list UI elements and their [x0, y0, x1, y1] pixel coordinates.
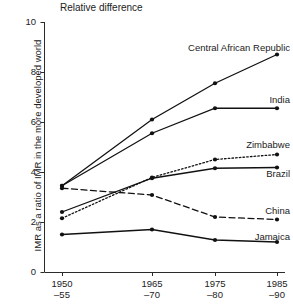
- point-brazil-0: [60, 210, 64, 214]
- plot-area: [0, 0, 293, 304]
- point-brazil-2: [213, 166, 217, 170]
- point-china-1: [150, 193, 154, 197]
- point-central-african-republic-2: [213, 81, 217, 85]
- point-brazil-1: [150, 176, 154, 180]
- point-central-african-republic-1: [150, 117, 154, 121]
- line-zimbabwe: [62, 155, 277, 219]
- point-jamaica-3: [275, 240, 279, 244]
- y-axis-ticks: [41, 23, 45, 273]
- line-brazil: [62, 168, 277, 213]
- point-jamaica-2: [213, 238, 217, 242]
- point-india-1: [150, 131, 154, 135]
- point-brazil-3: [275, 165, 279, 169]
- point-india-3: [275, 106, 279, 110]
- relative-difference-chart: Relative difference IMR as a ratio of IM…: [0, 0, 293, 304]
- point-india-2: [213, 106, 217, 110]
- point-zimbabwe-3: [275, 152, 279, 156]
- series-points: [60, 52, 279, 244]
- axes: [45, 22, 286, 273]
- line-jamaica: [62, 230, 277, 243]
- point-jamaica-0: [60, 232, 64, 236]
- line-india: [62, 108, 277, 186]
- point-zimbabwe-0: [60, 216, 64, 220]
- point-china-2: [213, 215, 217, 219]
- series-lines: [62, 55, 277, 243]
- point-central-african-republic-3: [275, 52, 279, 56]
- point-china-3: [275, 217, 279, 221]
- line-central-african-republic: [62, 55, 277, 186]
- point-zimbabwe-2: [213, 157, 217, 161]
- point-jamaica-1: [150, 227, 154, 231]
- point-china-0: [60, 186, 64, 190]
